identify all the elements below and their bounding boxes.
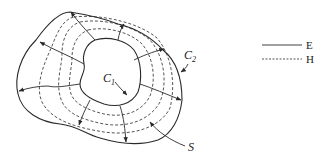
legend-label-h: H — [306, 53, 314, 65]
legend: E H — [262, 39, 314, 65]
outer-contour-c2 — [17, 12, 182, 144]
field-diagram: C1 C2 S E H — [0, 0, 330, 162]
s-label: S — [188, 140, 194, 154]
diagram-canvas: C1 C2 S E H — [0, 0, 330, 162]
c2-pointer-arrow — [181, 64, 188, 72]
c1-pointer-arrow — [115, 82, 127, 95]
label-pointers — [115, 64, 188, 146]
c1-label: C1 — [103, 71, 115, 87]
legend-label-e: E — [306, 39, 313, 51]
c2-label: C2 — [184, 48, 196, 64]
